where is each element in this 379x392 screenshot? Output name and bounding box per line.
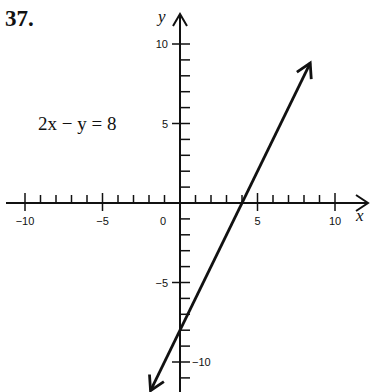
x-tick-label: −10 xyxy=(16,215,35,227)
plot-line xyxy=(149,63,311,391)
y-axis-label: y xyxy=(156,7,166,26)
x-tick-label: −5 xyxy=(96,215,109,227)
axes xyxy=(6,14,368,392)
x-axis-label: x xyxy=(355,206,364,225)
y-tick-label: 10 xyxy=(156,38,168,50)
x-tick-label: 0 xyxy=(160,215,166,227)
x-tick-label: 10 xyxy=(329,215,341,227)
coordinate-plane: −10−50510105−5−10xy xyxy=(0,0,379,392)
y-tick-label: −10 xyxy=(192,356,211,368)
y-tick-label: −5 xyxy=(155,277,168,289)
y-tick-label: 5 xyxy=(162,118,168,130)
x-tick-label: 5 xyxy=(254,215,260,227)
graph-line xyxy=(151,63,311,391)
